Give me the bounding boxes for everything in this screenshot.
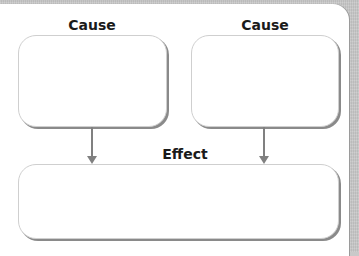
cause-2-box[interactable] [191, 35, 339, 127]
arrow-shaft [91, 127, 93, 157]
organizer-panel: Cause Cause Effect [0, 4, 349, 256]
cause-2-label: Cause [205, 17, 325, 33]
arrow-shaft [263, 127, 265, 157]
effect-label: Effect [125, 146, 245, 162]
cause-1-box[interactable] [18, 35, 167, 127]
effect-box[interactable] [18, 164, 339, 239]
arrow-down-icon [259, 156, 269, 164]
arrow-down-icon [87, 156, 97, 164]
cause-1-label: Cause [32, 17, 152, 33]
